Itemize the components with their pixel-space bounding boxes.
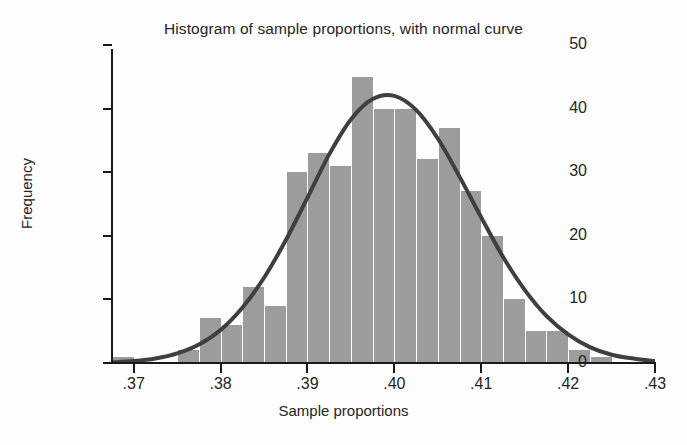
x-axis-tick-label: .40 — [364, 376, 424, 392]
y-axis-tick — [103, 171, 112, 173]
y-axis-tick — [103, 44, 112, 46]
x-axis-tick-label: .41 — [451, 376, 511, 392]
y-axis-tick — [103, 235, 112, 237]
x-axis-tick — [306, 364, 308, 373]
x-axis-tick — [133, 364, 135, 373]
y-axis-tick-label: 20 — [547, 227, 587, 243]
x-axis-tick — [654, 364, 656, 373]
x-axis-tick — [393, 364, 395, 373]
y-axis-line — [111, 49, 113, 364]
x-axis-tick — [480, 364, 482, 373]
y-axis-tick-label: 50 — [547, 36, 587, 52]
normal-curve — [112, 45, 655, 363]
histogram-figure: Histogram of sample proportions, with no… — [0, 0, 687, 445]
x-axis-label: Sample proportions — [0, 402, 687, 419]
x-axis-tick-label: .38 — [191, 376, 251, 392]
y-axis-tick — [103, 362, 112, 364]
x-axis-tick — [220, 364, 222, 373]
y-axis-tick — [103, 108, 112, 110]
y-axis-label: Frequency — [18, 124, 35, 264]
y-axis-tick-label: 10 — [547, 290, 587, 306]
x-axis-tick-label: .39 — [277, 376, 337, 392]
x-axis-tick-label: .37 — [104, 376, 164, 392]
x-axis-tick-label: .42 — [538, 376, 598, 392]
x-axis-tick — [567, 364, 569, 373]
x-axis-tick-label: .43 — [625, 376, 685, 392]
plot-area — [112, 45, 655, 363]
y-axis-tick-label: 40 — [547, 100, 587, 116]
y-axis-tick — [103, 298, 112, 300]
y-axis-tick-label: 30 — [547, 163, 587, 179]
